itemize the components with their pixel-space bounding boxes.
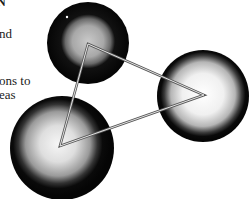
top-sphere-highlight	[66, 16, 68, 18]
spheres-figure	[0, 0, 251, 199]
bottom-left-sphere	[10, 96, 114, 199]
